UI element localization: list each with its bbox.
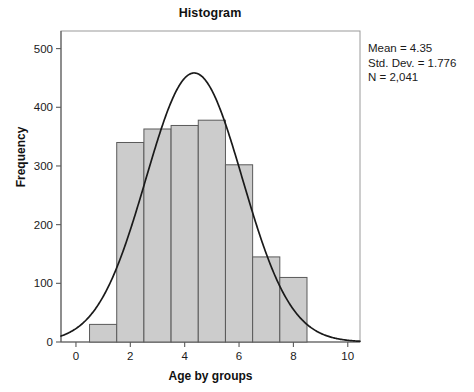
- x-tick-label: 6: [236, 350, 242, 362]
- x-tick-label: 2: [127, 350, 133, 362]
- x-tick-label: 0: [73, 350, 79, 362]
- histogram-bar: [171, 125, 198, 342]
- histogram-bar: [225, 165, 252, 342]
- sample-size-label: N = 2,041: [368, 70, 474, 85]
- x-tick-label: 4: [181, 350, 188, 362]
- y-tick-label: 0: [47, 336, 53, 348]
- x-tick-label: 10: [341, 350, 354, 362]
- y-tick-label: 500: [34, 43, 53, 55]
- y-axis-ticks: 0100200300400500: [34, 31, 61, 348]
- histogram-bar: [117, 142, 144, 342]
- histogram-bar: [144, 129, 171, 342]
- statistics-annotation: Mean = 4.35 Std. Dev. = 1.776 N = 2,041: [368, 41, 474, 85]
- mean-label: Mean = 4.35: [368, 41, 474, 56]
- y-tick-label: 100: [34, 277, 53, 289]
- y-axis-title: Frequency: [14, 102, 28, 212]
- y-tick-label: 300: [34, 160, 53, 172]
- histogram-bar: [90, 324, 117, 342]
- x-axis-title: Age by groups: [61, 369, 360, 383]
- std-dev-label: Std. Dev. = 1.776: [368, 56, 474, 71]
- x-axis-ticks: 0246810: [61, 342, 360, 362]
- y-tick-label: 400: [34, 101, 53, 113]
- y-tick-label: 200: [34, 219, 53, 231]
- x-tick-label: 8: [290, 350, 296, 362]
- histogram-bar: [253, 257, 280, 342]
- histogram-bar: [198, 120, 225, 342]
- histogram-figure: Histogram 0100200300400500 0246810 Frequ…: [0, 0, 474, 392]
